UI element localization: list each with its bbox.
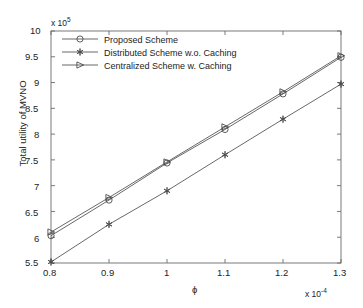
data-series-layer <box>48 53 345 266</box>
legend-sample-lines <box>62 36 98 68</box>
figure-canvas: x 105 x 10-4 ϕ Total utility of MVNO 10 … <box>0 0 363 308</box>
axes-frame <box>51 31 341 263</box>
axis-ticks <box>51 31 341 263</box>
plot-area <box>0 0 363 308</box>
